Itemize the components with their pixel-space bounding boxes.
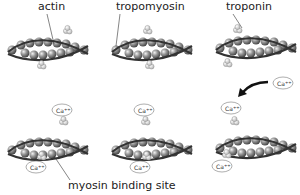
calcium-arrow: Ca++ <box>238 77 293 97</box>
filament-bottom <box>8 116 297 180</box>
ca-ion-3: Ca++ <box>134 104 154 116</box>
ca-ion-1: Ca++ <box>52 104 72 116</box>
filament-top <box>8 14 297 69</box>
ca-ion-5: Ca++ <box>221 102 241 114</box>
ca-ion-6: Ca++ <box>212 160 232 172</box>
ca-ion-4: Ca++ <box>130 161 150 173</box>
ca-ion-2: Ca++ <box>26 161 46 173</box>
thin-filament-diagram: Ca++ Ca++ Ca++ Ca++ Ca++ Ca++ Ca++ <box>0 0 300 195</box>
